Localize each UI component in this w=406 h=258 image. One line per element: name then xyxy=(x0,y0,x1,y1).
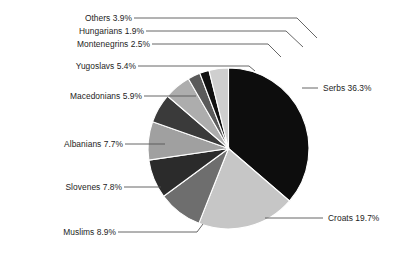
slice-label-others: Others 3.9% xyxy=(10,13,132,23)
slice-label-montenegrins: Montenegrins 2.5% xyxy=(6,39,150,49)
slice-label-hungarians: Hungarians 1.9% xyxy=(10,26,144,36)
pie-chart: Others 3.9% Hungarians 1.9% Montenegrins… xyxy=(0,0,406,258)
pie-slices xyxy=(148,68,309,229)
leader-line-montenegrins xyxy=(152,44,281,57)
slice-label-muslims: Muslims 8.9% xyxy=(8,227,116,237)
slice-label-slovenes: Slovenes 7.8% xyxy=(8,182,122,192)
slice-label-yugoslavs: Yugoslavs 5.4% xyxy=(10,61,136,71)
slice-label-serbs: Serbs 36.3% xyxy=(323,83,372,93)
slice-label-croats: Croats 19.7% xyxy=(328,213,379,223)
leader-line-hungarians xyxy=(146,31,303,47)
leader-line-others xyxy=(134,18,317,38)
slice-label-macedonians: Macedonians 5.9% xyxy=(8,91,142,101)
leader-line-muslims xyxy=(118,224,203,232)
slice-label-albanians: Albanians 7.7% xyxy=(8,139,123,149)
